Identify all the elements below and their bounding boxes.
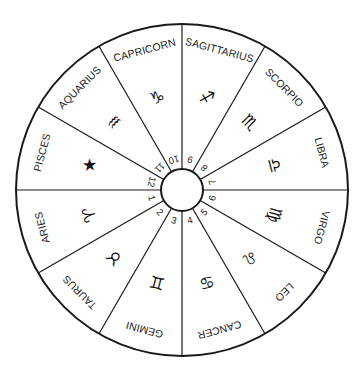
inner-circle [161, 169, 203, 211]
zodiac-wheel: SAGITTARIUS♐9SCORPIO♏8LIBRA♎7VIRGO♍6LEO♌… [0, 0, 361, 377]
